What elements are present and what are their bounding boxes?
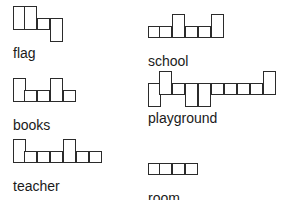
- letter-box-outline: [172, 83, 185, 95]
- word-shape-boxes-teacher: [13, 139, 104, 175]
- letter-box-outline: [89, 151, 102, 163]
- word-group-room: room: [148, 151, 200, 200]
- word-shape-boxes-flag: [13, 6, 65, 42]
- letter-box-outline: [211, 83, 224, 95]
- letter-box-outline: [172, 14, 185, 38]
- letter-box-outline: [185, 26, 198, 38]
- letter-box-outline: [50, 18, 63, 42]
- word-label-teacher: teacher: [13, 178, 104, 194]
- word-group-teacher: teacher: [13, 139, 104, 194]
- letter-box-desc: [52, 6, 65, 42]
- letter-box-outline: [63, 139, 76, 163]
- word-label-school: school: [148, 53, 226, 69]
- letter-box-short: [91, 139, 104, 175]
- letter-box-outline: [159, 163, 172, 175]
- letter-box-outline: [159, 71, 172, 95]
- letter-box-outline: [37, 18, 50, 30]
- word-shape-boxes-room: [148, 151, 200, 187]
- letter-box-outline: [211, 14, 224, 38]
- word-shape-boxes-playground: [148, 71, 278, 107]
- letter-box-outline: [24, 151, 37, 163]
- letter-box-outline: [198, 83, 211, 107]
- word-group-playground: playground: [148, 71, 278, 126]
- letter-box-outline: [63, 90, 76, 102]
- word-shape-worksheet: flag school books playground teacher roo…: [0, 0, 281, 200]
- word-label-books: books: [13, 117, 78, 133]
- letter-box-outline: [37, 90, 50, 102]
- letter-box-outline: [76, 151, 89, 163]
- letter-box-outline: [185, 83, 198, 107]
- letter-box-outline: [250, 83, 263, 95]
- letter-box-tall: [265, 71, 278, 107]
- word-label-playground: playground: [148, 110, 278, 126]
- letter-box-outline: [159, 26, 172, 38]
- letter-box-tall: [213, 14, 226, 50]
- letter-box-outline: [37, 151, 50, 163]
- word-group-flag: flag: [13, 6, 65, 61]
- letter-box-outline: [263, 71, 276, 95]
- word-shape-boxes-school: [148, 14, 226, 50]
- word-shape-boxes-books: [13, 78, 78, 114]
- letter-box-outline: [198, 26, 211, 38]
- word-group-books: books: [13, 78, 78, 133]
- word-label-flag: flag: [13, 45, 65, 61]
- letter-box-outline: [50, 78, 63, 102]
- word-label-room: room: [148, 190, 200, 200]
- letter-box-short: [187, 151, 200, 187]
- letter-box-outline: [185, 163, 198, 175]
- letter-box-outline: [24, 90, 37, 102]
- letter-box-short: [65, 78, 78, 114]
- letter-box-outline: [50, 151, 63, 163]
- letter-box-outline: [172, 163, 185, 175]
- letter-box-outline: [224, 83, 237, 95]
- letter-box-outline: [24, 6, 37, 30]
- letter-box-outline: [237, 83, 250, 95]
- word-group-school: school: [148, 14, 226, 69]
